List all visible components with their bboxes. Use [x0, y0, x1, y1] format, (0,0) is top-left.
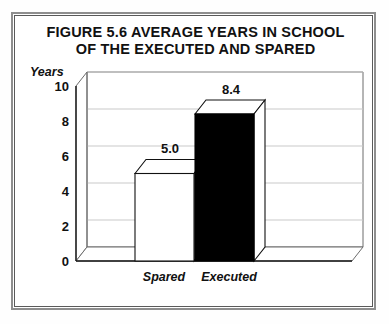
bar-executed-top-face — [195, 100, 265, 114]
y-tick-label-4: 4 — [62, 184, 70, 199]
bar-value-label-spared: 5.0 — [161, 141, 179, 156]
y-axis-title: Years — [30, 65, 64, 79]
x-label-spared: Spared — [143, 270, 186, 284]
y-tick-label-6: 6 — [62, 149, 69, 164]
bar-executed-side-face — [254, 100, 265, 261]
bar-executed-front-face — [195, 114, 254, 261]
y-tick-label-8: 8 — [62, 114, 69, 129]
bar-value-label-executed: 8.4 — [222, 82, 241, 97]
y-tick-label-2: 2 — [62, 219, 69, 234]
figure-root: FIGURE 5.6 AVERAGE YEARS IN SCHOOL OF TH… — [0, 0, 389, 324]
bar-executed[interactable] — [195, 100, 265, 261]
y-tick-label-0: 0 — [62, 254, 69, 269]
y-tick-label-10: 10 — [55, 79, 69, 94]
figure-frame: FIGURE 5.6 AVERAGE YEARS IN SCHOOL OF TH… — [11, 12, 376, 310]
x-label-executed: Executed — [201, 270, 257, 284]
chart-left-wall — [76, 72, 87, 261]
bar-spared-front-face — [135, 174, 194, 262]
bar-chart-3d: Years 10 8 6 4 2 0 5.0 8.4 Spared Execut… — [13, 14, 378, 312]
